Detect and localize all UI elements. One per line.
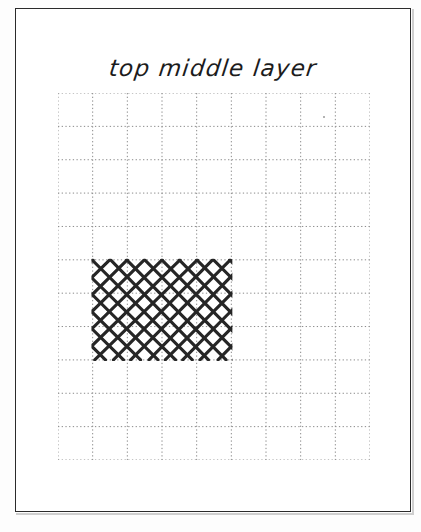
- page-title: top middle layer: [13, 55, 412, 81]
- page-canvas: top middle layer: [0, 0, 421, 532]
- artifact-layer: [58, 93, 370, 460]
- scan-speck: [323, 116, 325, 118]
- grid-area: [58, 93, 370, 460]
